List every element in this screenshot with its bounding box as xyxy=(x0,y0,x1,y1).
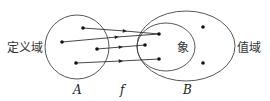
set-b-points xyxy=(143,25,205,65)
set-a-points xyxy=(60,26,99,65)
domain-label: 定义域 xyxy=(7,38,43,55)
set-a-label: A xyxy=(73,83,82,97)
image-label: 象 xyxy=(177,38,189,55)
mapping-f-label: f xyxy=(120,83,124,97)
set-b-label: B xyxy=(183,83,192,97)
set-a-circle xyxy=(45,15,109,79)
codomain-label: 值域 xyxy=(237,38,261,55)
